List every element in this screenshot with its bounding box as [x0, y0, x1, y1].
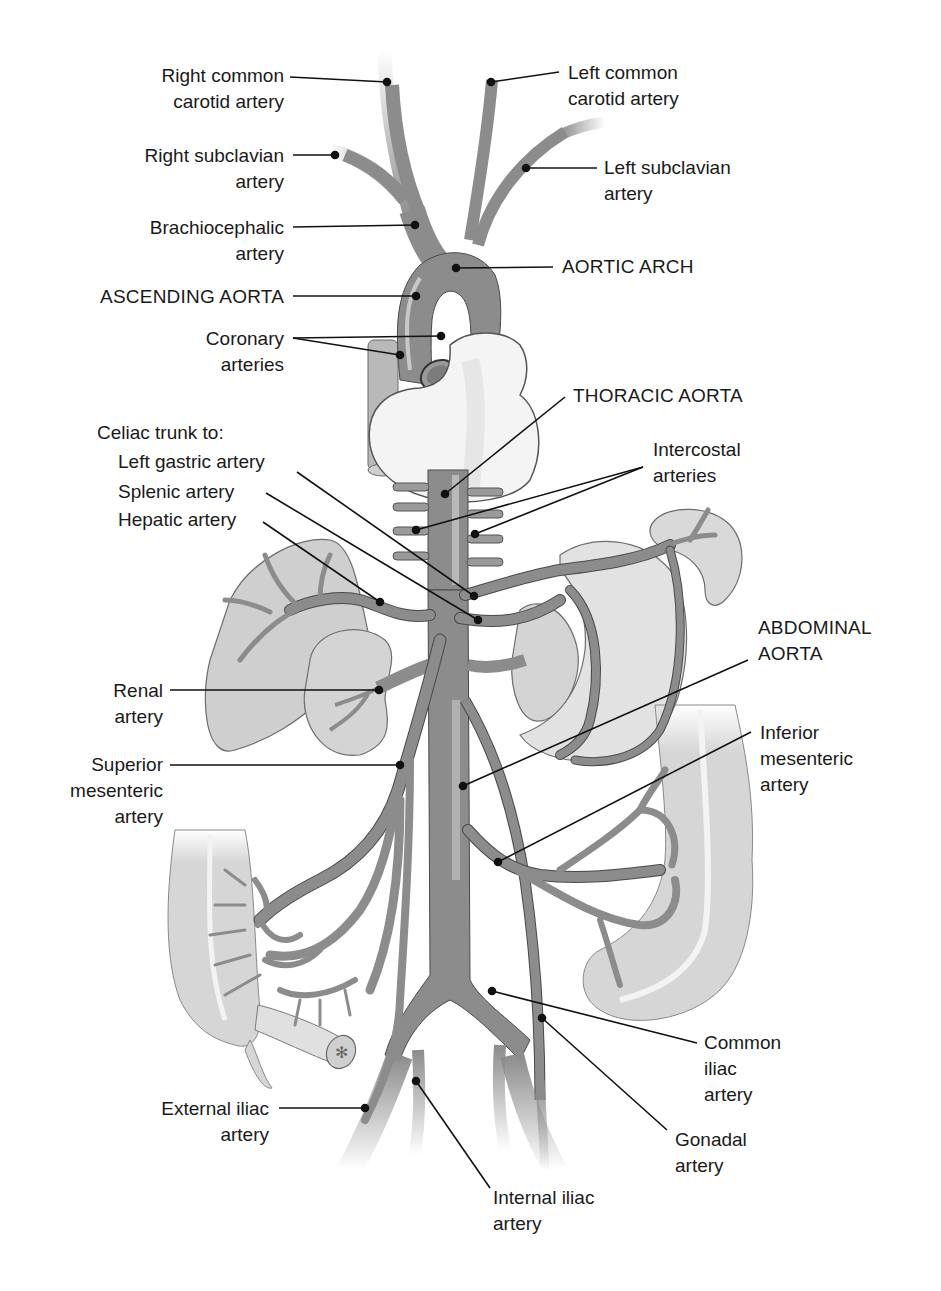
ascending-colon	[168, 830, 272, 1088]
label-left-subclavian-artery: Left subclavian artery	[604, 155, 731, 207]
label-coronary-arteries: Coronary arteries	[206, 326, 284, 378]
left-subclavian-artery	[478, 122, 605, 245]
label-celiac-trunk: Celiac trunk to:	[97, 420, 224, 446]
label-inferior-mesenteric-artery: Inferior mesenteric artery	[760, 720, 853, 798]
label-internal-iliac-artery: Internal iliac artery	[493, 1185, 594, 1237]
label-ascending-aorta: ASCENDING AORTA	[100, 284, 284, 310]
label-superior-mesenteric-artery: Superior mesenteric artery	[70, 752, 163, 830]
label-gonadal-artery: Gonadal artery	[675, 1127, 747, 1179]
thoracic-aorta	[428, 470, 468, 590]
label-aortic-arch: AORTIC ARCH	[562, 254, 694, 280]
label-common-iliac-artery: Common iliac artery	[704, 1030, 781, 1108]
small-intestine: ✻	[255, 1005, 361, 1073]
label-intercostal-arteries: Intercostal arteries	[653, 437, 741, 489]
label-left-common-carotid-artery: Left common carotid artery	[568, 60, 679, 112]
label-right-common-carotid-artery: Right common carotid artery	[162, 63, 285, 115]
label-splenic-artery: Splenic artery	[118, 479, 234, 505]
label-renal-artery: Renal artery	[113, 678, 163, 730]
label-abdominal-aorta: ABDOMINAL AORTA	[758, 615, 872, 667]
label-hepatic-artery: Hepatic artery	[118, 507, 236, 533]
label-thoracic-aorta: THORACIC AORTA	[573, 383, 743, 409]
label-brachiocephalic-artery: Brachiocephalic artery	[150, 215, 284, 267]
svg-text:✻: ✻	[335, 1043, 348, 1062]
label-left-gastric-artery: Left gastric artery	[118, 449, 265, 475]
label-right-subclavian-artery: Right subclavian artery	[145, 143, 284, 195]
iliac-arteries	[350, 1045, 555, 1170]
label-external-iliac-artery: External iliac artery	[161, 1096, 269, 1148]
